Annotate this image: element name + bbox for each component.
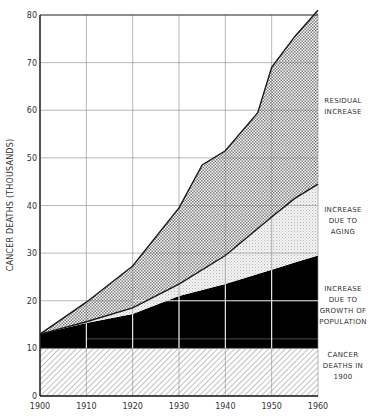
x-tick-label: 1930 (169, 402, 189, 411)
y-tick-label: 10 (27, 344, 37, 353)
legend-cancer-deaths-1900: CANCER DEATHS IN 1900 (312, 350, 374, 383)
y-tick-label: 80 (27, 11, 37, 20)
y-tick-label: 0 (32, 392, 37, 401)
x-tick-label: 1910 (76, 402, 96, 411)
legend-increase-due-to-population: INCREASE DUE TO GROWTH OF POPULATION (312, 284, 374, 328)
x-tick-label: 1960 (308, 402, 328, 411)
y-tick-label: 20 (27, 297, 37, 306)
x-tick-label: 1940 (215, 402, 235, 411)
x-tick-label: 1900 (30, 402, 50, 411)
x-tick-label: 1920 (122, 402, 142, 411)
y-tick-label: 60 (27, 106, 37, 115)
legend-increase-due-to-aging: INCREASE DUE TO AGING (312, 205, 374, 238)
y-axis-title: CANCER DEATHS (THOUSANDS) (6, 139, 15, 272)
legend-residual-increase: RESIDUAL INCREASE (312, 96, 374, 118)
y-tick-label: 70 (27, 59, 37, 68)
y-tick-label: 40 (27, 202, 37, 211)
y-tick-label: 30 (27, 249, 37, 258)
y-tick-label: 50 (27, 154, 37, 163)
x-tick-label: 1950 (261, 402, 281, 411)
